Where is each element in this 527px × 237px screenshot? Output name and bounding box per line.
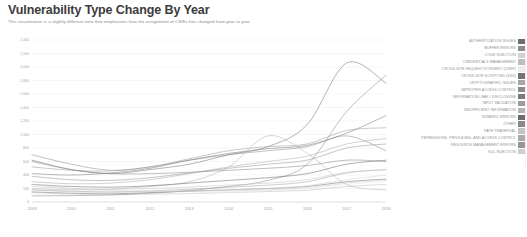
legend-item-label: SQL INJECTION bbox=[488, 150, 516, 154]
legend-item[interactable]: INFORMATION LEAK / DISCLOSURE bbox=[395, 93, 525, 100]
legend-color-swatch bbox=[518, 73, 525, 78]
legend-item-label: BUFFER ERRORS bbox=[484, 46, 516, 50]
legend-item-label: NUMERIC ERRORS bbox=[482, 115, 516, 119]
legend-item[interactable]: NUMERIC ERRORS bbox=[395, 114, 525, 121]
legend-item[interactable]: PATH TRAVERSAL bbox=[395, 128, 525, 135]
legend-item[interactable]: CRYPTOGRAPHIC ISSUES bbox=[395, 79, 525, 86]
legend-color-swatch bbox=[518, 149, 525, 154]
legend-item[interactable]: CODE INJECTION bbox=[395, 52, 525, 59]
legend-item-label: INPUT VALIDATION bbox=[482, 101, 516, 105]
y-axis-tick-label: 400 bbox=[23, 173, 29, 177]
legend-color-swatch bbox=[518, 94, 525, 99]
y-axis-tick-label: 2,200 bbox=[20, 52, 29, 56]
legend-item-label: CODE INJECTION bbox=[485, 53, 516, 57]
legend-item-label: AUTHENTICATION ISSUES bbox=[469, 39, 516, 43]
y-axis-tick-label: 800 bbox=[23, 146, 29, 150]
y-axis-tick-label: 1,400 bbox=[20, 106, 29, 110]
x-axis-tick-label: 2013 bbox=[185, 206, 194, 211]
y-axis-tick-label: 200 bbox=[23, 187, 29, 191]
legend-item-label: CREDENTIALS MANAGEMENT bbox=[463, 60, 516, 64]
legend-item-label: PERMISSIONS, PRIVILEGES, AND ACCESS CONT… bbox=[421, 136, 516, 140]
y-axis-tick-label: 1,600 bbox=[20, 92, 29, 96]
legend-item[interactable]: PERMISSIONS, PRIVILEGES, AND ACCESS CONT… bbox=[395, 134, 525, 141]
legend-item[interactable]: CROSS-SITE REQUEST FORGERY (CSRF) bbox=[395, 66, 525, 73]
chart-page: Vulnerability Type Change By Year This v… bbox=[0, 0, 527, 237]
legend-item-label: IMPROPER ACCESS CONTROL bbox=[461, 88, 516, 92]
legend-item[interactable]: BUFFER ERRORS bbox=[395, 45, 525, 52]
x-axis-tick-label: 2009 bbox=[28, 206, 37, 211]
page-title: Vulnerability Type Change By Year bbox=[8, 3, 209, 17]
legend-color-swatch bbox=[518, 121, 525, 126]
x-axis-tick-label: 2010 bbox=[67, 206, 76, 211]
series-line bbox=[32, 75, 386, 196]
legend-color-swatch bbox=[518, 128, 525, 133]
series-line bbox=[32, 139, 386, 184]
legend-color-swatch bbox=[518, 39, 525, 44]
legend-color-swatch bbox=[518, 115, 525, 120]
legend-item-label: RESOURCE MANAGEMENT ERRORS bbox=[451, 143, 516, 147]
series-line bbox=[32, 116, 386, 175]
y-axis-tick-label: 600 bbox=[23, 160, 29, 164]
legend-color-swatch bbox=[518, 66, 525, 71]
chart-plot-area: 02004006008001,0001,2001,4001,6001,8002,… bbox=[0, 34, 400, 224]
x-axis-tick-label: 2017 bbox=[342, 206, 351, 211]
legend-color-swatch bbox=[518, 80, 525, 85]
legend-item[interactable]: INSUFFICIENT INFORMATION bbox=[395, 107, 525, 114]
y-axis-tick-label: 0 bbox=[27, 200, 29, 204]
legend-item-label: INSUFFICIENT INFORMATION bbox=[464, 108, 516, 112]
legend-item[interactable]: CROSS-SITE SCRIPTING (XSS) bbox=[395, 72, 525, 79]
legend-item[interactable]: IMPROPER ACCESS CONTROL bbox=[395, 86, 525, 93]
legend-color-swatch bbox=[518, 108, 525, 113]
legend-item-label: INFORMATION LEAK / DISCLOSURE bbox=[453, 95, 516, 99]
series-line bbox=[32, 170, 386, 190]
legend-color-swatch bbox=[518, 135, 525, 140]
legend-color-swatch bbox=[518, 87, 525, 92]
legend-item[interactable]: SQL INJECTION bbox=[395, 148, 525, 155]
line-chart-svg: 02004006008001,0001,2001,4001,6001,8002,… bbox=[0, 34, 400, 224]
x-axis-tick-label: 2015 bbox=[264, 206, 273, 211]
legend-item-label: CRYPTOGRAPHIC ISSUES bbox=[469, 81, 516, 85]
x-axis-tick-label: 2012 bbox=[146, 206, 155, 211]
chart-legend: AUTHENTICATION ISSUESBUFFER ERRORSCODE I… bbox=[395, 38, 525, 155]
y-axis-tick-label: 2,000 bbox=[20, 65, 29, 69]
legend-item[interactable]: CREDENTIALS MANAGEMENT bbox=[395, 59, 525, 66]
x-axis-tick-label: 2016 bbox=[303, 206, 312, 211]
legend-color-swatch bbox=[518, 59, 525, 64]
legend-item-label: OTHER bbox=[503, 122, 516, 126]
y-axis-tick-label: 1,000 bbox=[20, 133, 29, 137]
legend-color-swatch bbox=[518, 53, 525, 58]
x-axis-tick-label: 2011 bbox=[106, 206, 114, 211]
y-axis-tick-label: 1,800 bbox=[20, 79, 29, 83]
legend-color-swatch bbox=[518, 101, 525, 106]
legend-color-swatch bbox=[518, 142, 525, 147]
legend-item-label: CROSS-SITE REQUEST FORGERY (CSRF) bbox=[442, 67, 516, 71]
legend-item-label: CROSS-SITE SCRIPTING (XSS) bbox=[461, 74, 516, 78]
legend-item[interactable]: RESOURCE MANAGEMENT ERRORS bbox=[395, 141, 525, 148]
y-axis-tick-label: 1,200 bbox=[20, 119, 29, 123]
legend-color-swatch bbox=[518, 46, 525, 51]
legend-item-label: PATH TRAVERSAL bbox=[484, 129, 516, 133]
x-axis-tick-label: 2014 bbox=[224, 206, 233, 211]
page-subtitle: This visualization is a slightly differe… bbox=[8, 19, 250, 24]
series-line bbox=[32, 136, 386, 171]
x-axis-tick-label: 2018 bbox=[382, 206, 391, 211]
legend-item[interactable]: OTHER bbox=[395, 121, 525, 128]
legend-item[interactable]: AUTHENTICATION ISSUES bbox=[395, 38, 525, 45]
legend-item[interactable]: INPUT VALIDATION bbox=[395, 100, 525, 107]
y-axis-tick-label: 2,400 bbox=[20, 38, 29, 42]
